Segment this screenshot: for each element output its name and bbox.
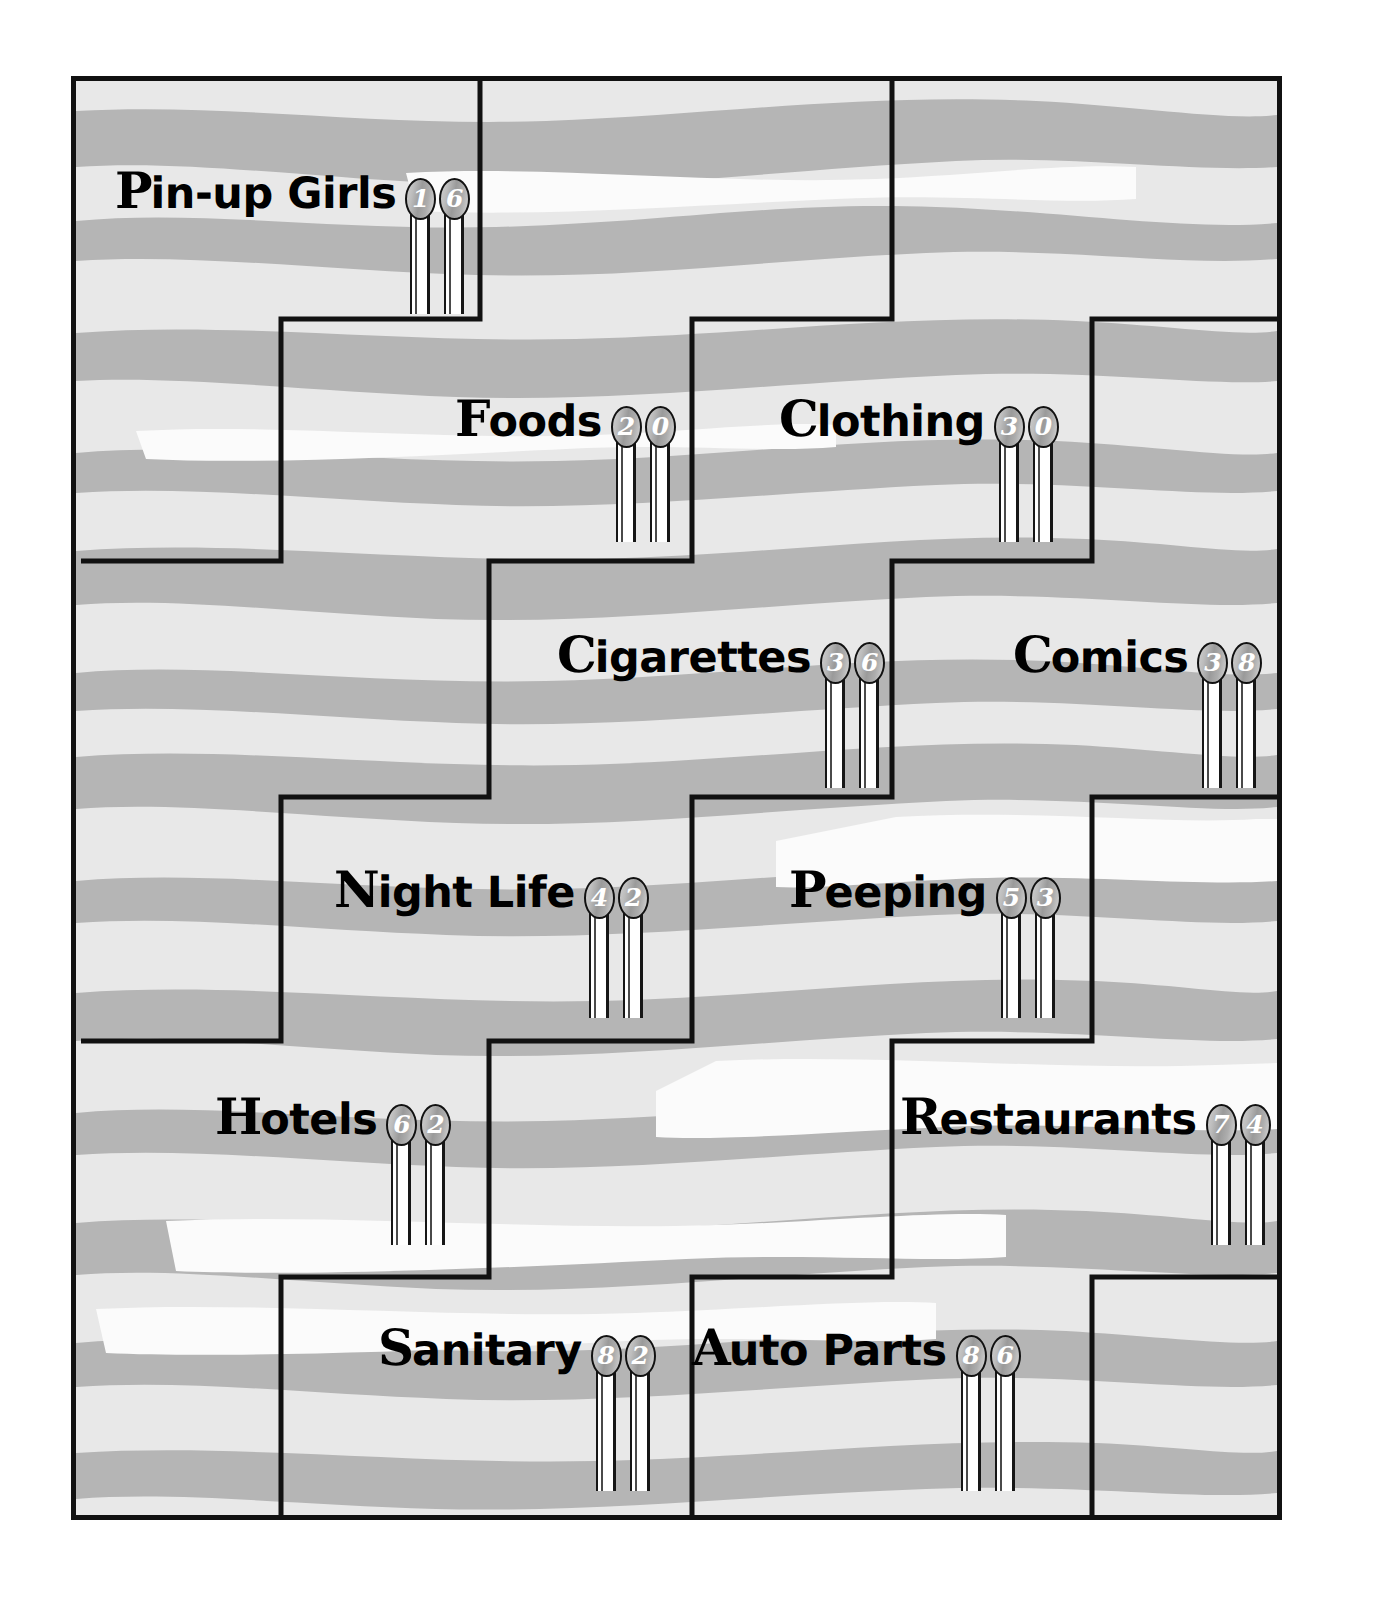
pin-stem-icon (444, 214, 464, 314)
pin-head-icon: 6 (439, 178, 470, 220)
chart-entry-foods[interactable]: Foods 2 0 (455, 398, 676, 448)
pin-stem-icon (825, 678, 845, 788)
pin-stem-icon (1202, 678, 1222, 788)
pin-stem-icon (391, 1140, 411, 1245)
pin-digit-first: 2 (611, 406, 642, 448)
pin-head-icon: 5 (996, 877, 1027, 919)
pin-digit-second: 3 (1030, 877, 1061, 919)
pin-stem-icon (1001, 913, 1021, 1018)
chart-entry-hotels[interactable]: Hotels 6 2 (215, 1096, 451, 1146)
pin-head-icon: 8 (956, 1335, 987, 1377)
chart-entry-comics[interactable]: Comics 3 8 (1013, 634, 1262, 684)
pin-head-icon: 4 (1240, 1104, 1271, 1146)
pin-head-icon: 2 (611, 406, 642, 448)
pin-digit-first: 8 (591, 1335, 622, 1377)
chart-entry-sanitary[interactable]: Sanitary 8 2 (378, 1327, 656, 1377)
entry-label-auto-parts: Auto Parts (692, 1323, 956, 1373)
entry-label-night-life: Night Life (334, 865, 584, 915)
pin-head-icon: 3 (994, 406, 1025, 448)
entry-label-clothing: Clothing (779, 394, 994, 444)
value-pins-auto-parts: 8 6 (956, 1335, 1021, 1377)
entry-label-comics: Comics (1013, 630, 1197, 680)
pin-head-icon: 0 (1028, 406, 1059, 448)
chart-entry-cigarettes[interactable]: Cigarettes 3 6 (557, 634, 885, 684)
value-pins-hotels: 6 2 (386, 1104, 451, 1146)
entry-label-restaurants: Restaurants (900, 1092, 1206, 1142)
pin-digit-first: 8 (956, 1335, 987, 1377)
pin-stem-icon (1236, 678, 1256, 788)
pin-digit-second: 0 (1028, 406, 1059, 448)
pin-stem-icon (999, 442, 1019, 542)
pin-stem-icon (623, 913, 643, 1018)
pin-stem-icon (1211, 1140, 1231, 1245)
pin-head-icon: 3 (1030, 877, 1061, 919)
pin-stem-icon (1245, 1140, 1265, 1245)
entry-label-sanitary: Sanitary (378, 1323, 591, 1373)
pin-stem-icon (1035, 913, 1055, 1018)
pin-digit-second: 0 (645, 406, 676, 448)
pin-head-icon: 6 (854, 642, 885, 684)
value-pins-sanitary: 8 2 (591, 1335, 656, 1377)
pin-digit-first: 3 (820, 642, 851, 684)
pin-head-icon: 3 (1197, 642, 1228, 684)
value-pins-night-life: 4 2 (584, 877, 649, 919)
pin-digit-second: 8 (1231, 642, 1262, 684)
pin-stem-icon (630, 1371, 650, 1491)
pin-stem-icon (650, 442, 670, 542)
pin-head-icon: 2 (625, 1335, 656, 1377)
entry-label-pin-up-girls: Pin-up Girls (115, 166, 405, 216)
value-pins-restaurants: 7 4 (1206, 1104, 1271, 1146)
pin-digit-second: 6 (990, 1335, 1021, 1377)
chart-entry-pin-up-girls[interactable]: Pin-up Girls 1 6 (115, 170, 470, 220)
entry-label-hotels: Hotels (215, 1092, 386, 1142)
pin-stem-icon (961, 1371, 981, 1491)
pin-stem-icon (616, 442, 636, 542)
pin-stem-icon (596, 1371, 616, 1491)
pin-head-icon: 4 (584, 877, 615, 919)
pin-stem-icon (425, 1140, 445, 1245)
pin-digit-second: 6 (854, 642, 885, 684)
pin-digit-first: 1 (405, 178, 436, 220)
pin-head-icon: 6 (386, 1104, 417, 1146)
value-pins-comics: 3 8 (1197, 642, 1262, 684)
pin-digit-second: 4 (1240, 1104, 1271, 1146)
entry-label-peeping: Peeping (789, 865, 996, 915)
pin-digit-first: 3 (994, 406, 1025, 448)
pin-head-icon: 6 (990, 1335, 1021, 1377)
chart-entry-auto-parts[interactable]: Auto Parts 8 6 (692, 1327, 1021, 1377)
pin-digit-second: 2 (625, 1335, 656, 1377)
pin-head-icon: 8 (1231, 642, 1262, 684)
value-pins-pin-up-girls: 1 6 (405, 178, 470, 220)
value-pins-peeping: 5 3 (996, 877, 1061, 919)
entry-label-foods: Foods (455, 394, 611, 444)
pin-digit-first: 6 (386, 1104, 417, 1146)
pin-stem-icon (589, 913, 609, 1018)
value-pins-cigarettes: 3 6 (820, 642, 885, 684)
figure-canvas: Pin-up Girls 1 6 Foods 2 0 Clothin (0, 0, 1396, 1601)
entry-label-cigarettes: Cigarettes (557, 630, 820, 680)
chart-entry-restaurants[interactable]: Restaurants 7 4 (900, 1096, 1271, 1146)
pin-digit-first: 7 (1206, 1104, 1237, 1146)
pin-digit-first: 4 (584, 877, 615, 919)
pin-stem-icon (410, 214, 430, 314)
pin-head-icon: 0 (645, 406, 676, 448)
pin-head-icon: 2 (618, 877, 649, 919)
pin-stem-icon (995, 1371, 1015, 1491)
chart-entry-peeping[interactable]: Peeping 5 3 (789, 869, 1061, 919)
pin-head-icon: 2 (420, 1104, 451, 1146)
pin-stem-icon (859, 678, 879, 788)
cloud-band-background (76, 81, 1277, 1515)
pin-head-icon: 1 (405, 178, 436, 220)
pin-digit-second: 6 (439, 178, 470, 220)
pin-digit-first: 3 (1197, 642, 1228, 684)
value-pins-clothing: 3 0 (994, 406, 1059, 448)
pin-stem-icon (1033, 442, 1053, 542)
pin-head-icon: 7 (1206, 1104, 1237, 1146)
pin-digit-second: 2 (618, 877, 649, 919)
chart-entry-night-life[interactable]: Night Life 4 2 (334, 869, 649, 919)
chart-entry-clothing[interactable]: Clothing 3 0 (779, 398, 1059, 448)
pin-head-icon: 3 (820, 642, 851, 684)
chart-frame (71, 76, 1282, 1520)
pin-head-icon: 8 (591, 1335, 622, 1377)
value-pins-foods: 2 0 (611, 406, 676, 448)
